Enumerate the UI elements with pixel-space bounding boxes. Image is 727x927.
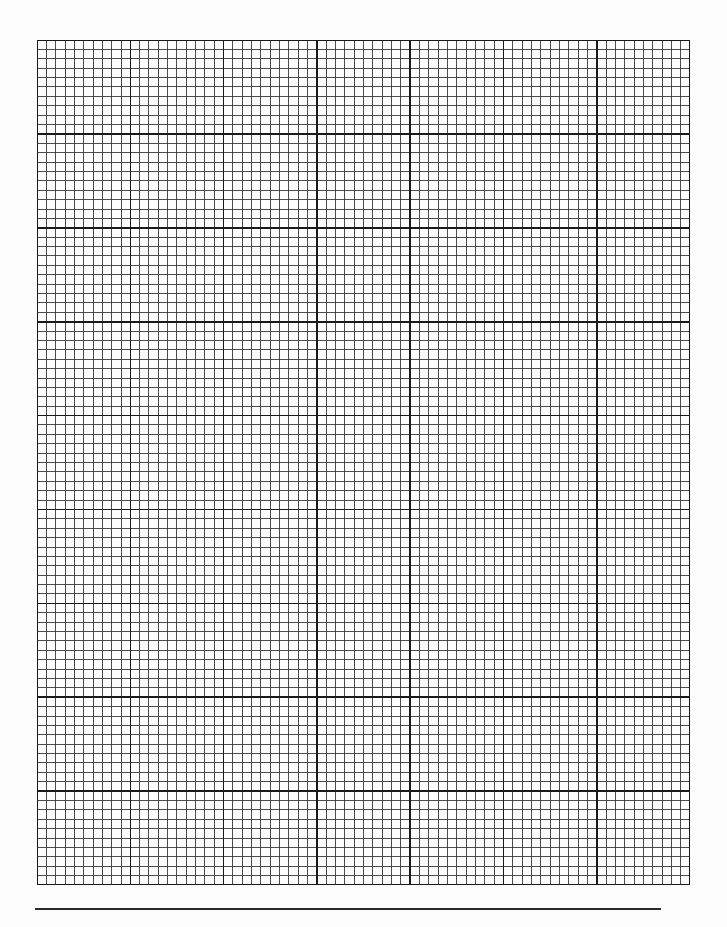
graph-paper-page	[0, 0, 727, 927]
graph-grid	[37, 40, 690, 885]
grid-lines	[37, 40, 690, 885]
footer-rule-line	[35, 908, 661, 910]
